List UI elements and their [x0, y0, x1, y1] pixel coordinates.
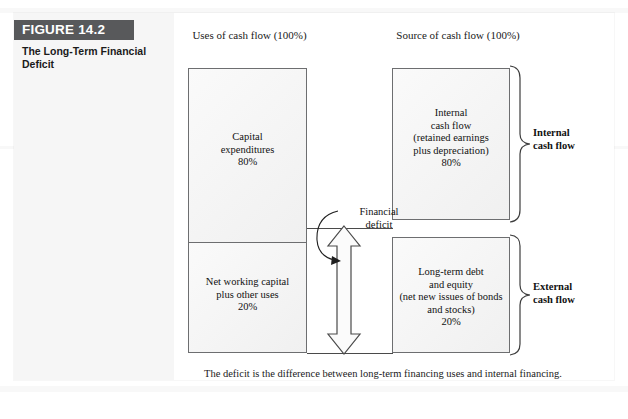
box-net-working-capital: Net working capital plus other uses 20% — [188, 243, 307, 353]
brace-internal-label: Internal cash flow — [533, 127, 575, 152]
box-long-term-debt-and-equity: Long-term debt and equity (net new issue… — [392, 237, 510, 353]
box-internal-cash-flow: Internal cash flow (retained earnings pl… — [392, 68, 510, 220]
box-long-term-debt-and-equity-label: Long-term debt and equity (net new issue… — [393, 266, 509, 329]
figure-subtitle: The Long-Term Financial Deficit — [22, 45, 152, 71]
box-capital-expenditures-label: Capital expenditures 80% — [189, 131, 306, 169]
scan-streak — [0, 386, 628, 392]
box-capital-expenditures: Capital expenditures 80% — [188, 68, 307, 243]
box-net-working-capital-label: Net working capital plus other uses 20% — [189, 276, 306, 314]
uses-column-heading: Uses of cash flow (100%) — [182, 29, 317, 42]
figure-number-label: FIGURE 14.2 — [22, 22, 105, 37]
figure-caption: The deficit is the difference between lo… — [204, 368, 562, 379]
brace-internal-icon — [508, 64, 534, 224]
source-column-heading: Source of cash flow (100%) — [388, 29, 528, 42]
box-internal-cash-flow-label: Internal cash flow (retained earnings pl… — [393, 107, 509, 170]
brace-external-icon — [508, 233, 534, 357]
brace-external-label: External cash flow — [533, 281, 575, 306]
figure-number-bar: FIGURE 14.2 — [14, 20, 134, 40]
financial-deficit-label: Financial deficit — [333, 206, 425, 231]
